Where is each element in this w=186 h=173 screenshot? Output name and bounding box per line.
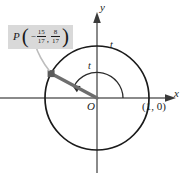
x-coordinate-sign: − — [31, 32, 36, 41]
reference-point-label: (1, 0) — [142, 101, 166, 112]
point-p-coordinates: − 15 17 , 8 17 — [29, 29, 62, 46]
origin-label: O — [87, 101, 95, 112]
point-p-callout: P ( − 15 17 , 8 17 ) — [8, 25, 73, 49]
x-denominator: 17 — [38, 38, 45, 45]
y-axis-label: y — [100, 2, 105, 13]
x-axis-label: x — [174, 88, 179, 99]
y-numerator: 8 — [54, 29, 58, 36]
y-axis-arrowhead — [93, 12, 101, 23]
y-denominator: 17 — [52, 38, 59, 45]
arc-parameter-label: t — [88, 61, 91, 71]
x-coordinate-fraction: 15 17 — [37, 29, 46, 46]
arc-length-label: t — [110, 40, 113, 50]
x-numerator: 15 — [38, 29, 45, 36]
unit-circle-figure: y x O t t (1, 0) P ( − 15 17 , 8 17 ) — [0, 0, 186, 173]
point-p-name: P — [13, 31, 20, 42]
terminal-radius — [51, 74, 97, 98]
callout-close-bracket: ) — [62, 28, 69, 46]
angle-arc — [74, 72, 123, 98]
y-coordinate-fraction: 8 17 — [51, 29, 60, 46]
coordinate-comma: , — [47, 35, 49, 45]
callout-open-bracket: ( — [22, 28, 29, 46]
